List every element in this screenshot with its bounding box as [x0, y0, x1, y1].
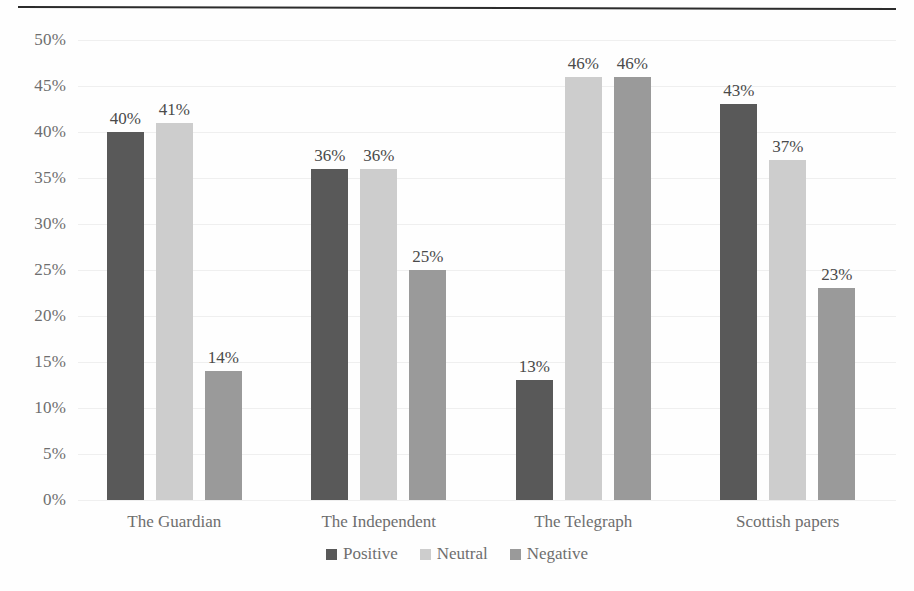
category-label: The Guardian: [107, 512, 242, 531]
bar[interactable]: 40%: [107, 132, 144, 500]
chart-legend: PositiveNeutralNegative: [0, 545, 914, 563]
y-axis-tick-label: 30%: [34, 215, 66, 232]
bar[interactable]: 23%: [818, 288, 855, 500]
bar[interactable]: 14%: [205, 371, 242, 500]
legend-swatch-icon: [326, 549, 337, 560]
bar-value-label: 25%: [412, 248, 443, 266]
category-label: The Telegraph: [516, 512, 651, 531]
y-axis-tick-label: 50%: [34, 31, 66, 48]
bar-value-label: 41%: [159, 101, 190, 119]
bar-value-label: 36%: [363, 147, 394, 165]
legend-label: Neutral: [437, 545, 488, 563]
bar-value-label: 46%: [617, 55, 648, 73]
legend-label: Positive: [343, 545, 398, 563]
bar-chart: 50%45%40%35%30%25%20%15%10%5%0% 40%41%14…: [0, 0, 914, 591]
y-axis-tick-label: 40%: [34, 123, 66, 140]
top-rule-divider: [18, 6, 896, 10]
bar[interactable]: 46%: [614, 77, 651, 500]
y-axis-tick-label: 0%: [43, 491, 66, 508]
bar-group: 36%36%25%The Independent: [311, 40, 446, 500]
bar[interactable]: 46%: [565, 77, 602, 500]
legend-swatch-icon: [510, 549, 521, 560]
category-label: The Independent: [311, 512, 446, 531]
legend-item[interactable]: Positive: [326, 545, 398, 563]
bar[interactable]: 37%: [769, 160, 806, 500]
bar[interactable]: 43%: [720, 104, 757, 500]
bar-group: 40%41%14%The Guardian: [107, 40, 242, 500]
bar[interactable]: 36%: [311, 169, 348, 500]
legend-item[interactable]: Neutral: [420, 545, 488, 563]
y-axis-tick-label: 35%: [34, 169, 66, 186]
y-axis-tick-label: 45%: [34, 77, 66, 94]
bar-value-label: 13%: [519, 358, 550, 376]
y-axis-tick-label: 25%: [34, 261, 66, 278]
bar-group: 43%37%23%Scottish papers: [720, 40, 855, 500]
bar-value-label: 23%: [821, 266, 852, 284]
bar[interactable]: 36%: [360, 169, 397, 500]
gridline: [78, 500, 896, 501]
legend-item[interactable]: Negative: [510, 545, 588, 563]
bar-value-label: 36%: [314, 147, 345, 165]
y-axis-labels: 50%45%40%35%30%25%20%15%10%5%0%: [0, 0, 78, 591]
bar-value-label: 40%: [110, 110, 141, 128]
bar[interactable]: 13%: [516, 380, 553, 500]
bar-value-label: 46%: [568, 55, 599, 73]
legend-swatch-icon: [420, 549, 431, 560]
bar-value-label: 14%: [208, 349, 239, 367]
bar-group: 13%46%46%The Telegraph: [516, 40, 651, 500]
bar[interactable]: 25%: [409, 270, 446, 500]
y-axis-tick-label: 20%: [34, 307, 66, 324]
bar[interactable]: 41%: [156, 123, 193, 500]
plot-area: 40%41%14%The Guardian36%36%25%The Indepe…: [78, 40, 896, 500]
y-axis-tick-label: 10%: [34, 399, 66, 416]
legend-label: Negative: [527, 545, 588, 563]
category-label: Scottish papers: [720, 512, 855, 531]
y-axis-tick-label: 15%: [34, 353, 66, 370]
bar-value-label: 37%: [772, 138, 803, 156]
y-axis-tick-label: 5%: [43, 445, 66, 462]
bar-value-label: 43%: [723, 82, 754, 100]
